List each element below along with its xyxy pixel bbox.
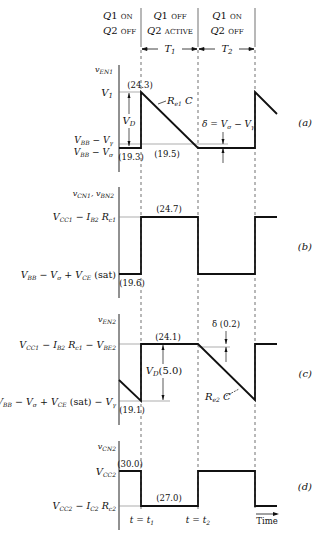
phase-1-line-2: Q2 OFF	[103, 25, 136, 36]
xlabel-time: Time	[256, 516, 277, 526]
panel-b: vCN1, vBN2 VCC1 − IB2 Rc1 VBB − Vσ + VCE…	[21, 187, 312, 298]
ylabel-c: vEN2	[98, 315, 116, 325]
panel-a: vEN1 V1 VBB − Vγ VBB − Vσ VD δ = Vσ − Vγ…	[74, 65, 312, 172]
interval-t1-label: T1	[164, 43, 175, 56]
high-value-b: (24.7)	[156, 204, 182, 214]
delta-label-a: δ = Vσ − Vγ	[202, 119, 255, 131]
phase-1-line-1: Q1 ON	[103, 10, 133, 21]
panel-tag-b: (b)	[298, 241, 312, 252]
phase-3-line-1: Q1 ON	[212, 10, 242, 21]
level-vbb-vsigma-vcesat: VBB − Vσ + VCE (sat)	[21, 269, 116, 281]
level-vcc2-ic2rc2: VCC2 − IC2 Rc2	[53, 500, 117, 512]
phase-2-line-1: Q1 OFF	[153, 10, 186, 21]
low-value-b: (19.6)	[119, 278, 145, 288]
low-mid-value-a: (19.5)	[154, 149, 180, 159]
level-vbb-vgamma: VBB − Vγ	[74, 135, 113, 147]
panel-d: vCN2 VCC2 VCC2 − IC2 Rc2 (30.0) (27.0) (…	[53, 441, 313, 530]
panel-tag-a: (a)	[298, 117, 312, 128]
peak-value-a: (24.3)	[127, 80, 153, 90]
ylabel-b: vCN1, vBN2	[73, 189, 114, 199]
waveform-b	[119, 217, 277, 274]
panel-c: vEN2 VCC1 − IB2 Rc1 − VBE2 VBB − Vσ + VC…	[0, 314, 312, 425]
level-vbb-vsigma-vcesat-vgamma: VBB − Vσ + VCE (sat) − Vγ	[0, 396, 116, 409]
xtick-t2: t = t2	[186, 515, 211, 526]
panel-tag-c: (c)	[299, 368, 313, 379]
low-value-d: (27.0)	[156, 493, 182, 503]
low-left-value-a: (19.3)	[118, 152, 144, 162]
ylabel-a: vEN1	[95, 65, 113, 75]
phase-3-line-2: Q2 OFF	[210, 25, 243, 36]
level-vcc1-ib2rc1: VCC1 − IB2 Rc1	[53, 211, 116, 223]
level-vcc2: VCC2	[96, 466, 116, 478]
xtick-t1: t = t1	[130, 515, 154, 526]
waveform-d	[119, 471, 277, 506]
interval-t2-label: T2	[221, 43, 233, 56]
phase-labels: Q1 ON Q2 OFF Q1 OFF Q2 ACTIVE Q1 ON Q2 O…	[103, 10, 244, 36]
waveform-diagram: Q1 ON Q2 OFF Q1 OFF Q2 ACTIVE Q1 ON Q2 O…	[0, 0, 332, 541]
phase-2-line-2: Q2 ACTIVE	[147, 25, 193, 36]
level-vbb-vsigma: VBB − Vσ	[74, 147, 114, 158]
high-value-d: (30.0)	[117, 459, 143, 469]
ylabel-d: vCN2	[98, 442, 116, 452]
delta-label-c: δ (0.2)	[212, 319, 240, 329]
high-value-c: (24.1)	[155, 332, 181, 342]
level-v1: V1	[101, 87, 113, 100]
panel-tag-d: (d)	[298, 481, 312, 492]
low-value-c: (19.1)	[119, 405, 145, 415]
level-vcc1-ib2rc1-vbe2: VCC1 − IB2 Rc1 − VBE2	[19, 339, 116, 351]
slope-label-c: Re2 C	[204, 391, 231, 403]
slope-label-a: Re1 C	[166, 95, 193, 107]
